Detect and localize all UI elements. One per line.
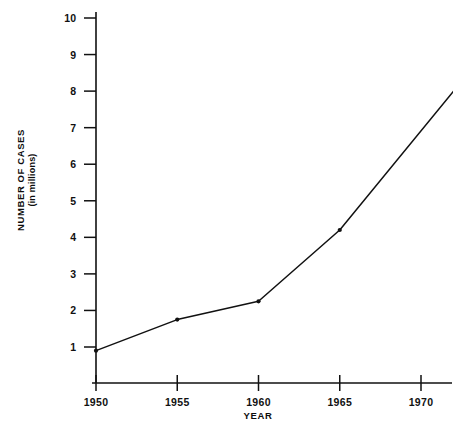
y-tick-label: 6 bbox=[70, 158, 76, 170]
chart-canvas: 12345678910 19501955196019651970 NUMBER … bbox=[0, 0, 453, 425]
data-point bbox=[338, 228, 342, 232]
y-tick-label: 4 bbox=[70, 231, 76, 243]
y-tick-label: 1 bbox=[70, 341, 76, 353]
y-tick-label: 9 bbox=[70, 49, 76, 61]
data-point bbox=[175, 317, 179, 321]
x-tick-label: 1950 bbox=[84, 396, 109, 408]
y-axis-subtitle: (in millions) bbox=[27, 153, 37, 206]
x-tick-label: 1970 bbox=[409, 396, 434, 408]
chart-background bbox=[0, 0, 453, 425]
y-tick-label: 5 bbox=[70, 195, 76, 207]
y-tick-label: 10 bbox=[64, 12, 76, 24]
data-point bbox=[256, 299, 260, 303]
y-tick-label: 2 bbox=[70, 304, 76, 316]
y-axis-title: NUMBER OF CASES bbox=[15, 129, 26, 231]
line-chart: 12345678910 19501955196019651970 NUMBER … bbox=[0, 0, 453, 425]
y-tick-label: 7 bbox=[70, 122, 76, 134]
x-tick-label: 1960 bbox=[246, 396, 271, 408]
x-axis-title: YEAR bbox=[244, 410, 273, 421]
y-tick-label: 3 bbox=[70, 268, 76, 280]
data-point bbox=[94, 349, 98, 353]
x-tick-label: 1955 bbox=[165, 396, 190, 408]
x-tick-label: 1965 bbox=[327, 396, 352, 408]
y-tick-label: 8 bbox=[70, 85, 76, 97]
